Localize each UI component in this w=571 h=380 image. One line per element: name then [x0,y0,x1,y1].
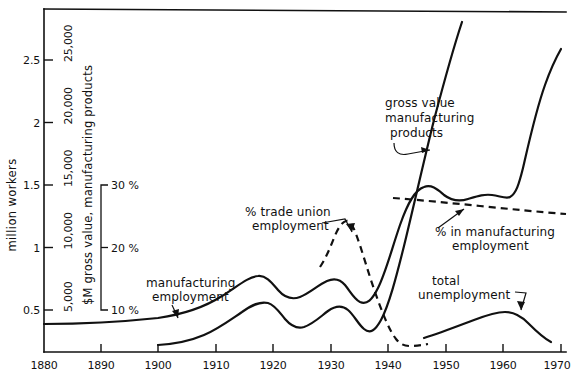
x-tick-label-1950: 1950 [432,359,459,372]
top-rule [44,9,566,12]
series-total-unemployment [424,312,551,342]
y-axis-title-million-workers: million workers [5,158,19,251]
x-tick-label-1910: 1910 [202,359,229,372]
percent-label-10: 10 % [111,304,139,317]
unemployment-annotation: total unemployment [418,274,526,310]
chart-container: 0.5 1 1.5 2 2.5 million workers 5,000 10… [0,0,571,380]
unemployment-annotation-arrowhead [517,301,525,310]
y-axis-title-gross-value: $M gross value, manufacturing products [81,65,95,305]
x-tick-label-1880: 1880 [30,359,57,372]
gross-value-annotation-line1: gross value [385,96,455,110]
x-tick-label-1930: 1930 [317,359,344,372]
x-tick-label-1890: 1890 [87,359,114,372]
percent-label-20: 20 % [111,242,139,255]
y-tick-label-20000: 20,000 [62,87,75,124]
y-tick-label-25000: 25,000 [62,25,75,62]
x-axis-ticks [101,344,561,352]
x-tick-label-1970: 1970 [543,359,570,372]
gross-value-annotation: gross value manufacturing products [385,96,475,155]
y-tick-label-15000: 15,000 [62,150,75,187]
x-tick-label-1960: 1960 [489,359,516,372]
x-tick-label-1940: 1940 [374,359,401,372]
manufacturing-employment-annotation: manufacturing employment [146,276,236,318]
y-tick-label-10000: 10,000 [62,212,75,249]
trade-union-annotation-line2: employment [252,219,329,233]
series-percent-trade-union-employment [320,221,428,346]
gross-value-annotation-line3: products [390,126,443,140]
pct-manufacturing-annotation: % in manufacturing employment [435,209,555,253]
percent-scale-bracket: 30 % 20 % 10 % [101,179,139,317]
multi-series-line-chart: 0.5 1 1.5 2 2.5 million workers 5,000 10… [0,0,571,380]
gross-value-annotation-line2: manufacturing [385,111,475,125]
series-percent-in-manufacturing-employment [393,198,566,214]
unemployment-annotation-line1: total [432,274,460,288]
y-tick-label-0.5: 0.5 [23,304,40,317]
pct-manufacturing-annotation-line1: % in manufacturing [435,225,555,239]
y-tick-labels-gross-value: 5,000 10,000 15,000 20,000 25,000 [62,25,75,312]
y-tick-label-1: 1 [33,242,40,255]
pct-manufacturing-annotation-line2: employment [452,239,529,253]
y-tick-label-5000: 5,000 [62,281,75,312]
y-tick-label-1.5: 1.5 [23,179,40,192]
manufacturing-employment-annotation-line1: manufacturing [146,276,236,290]
y-tick-labels-workers: 0.5 1 1.5 2 2.5 [23,54,40,317]
manufacturing-employment-annotation-arrowhead [172,309,179,318]
percent-label-30: 30 % [111,179,139,192]
manufacturing-employment-annotation-line2: employment [152,290,229,304]
trade-union-annotation-line1: % trade union [245,205,331,219]
x-tick-label-1920: 1920 [259,359,286,372]
y-tick-label-2.5: 2.5 [23,54,40,67]
y-tick-label-2: 2 [33,117,40,130]
x-tick-labels: 1880 1890 1900 1910 1920 1930 1940 1950 … [30,359,570,372]
y-axis-ticks-workers [44,60,53,310]
x-tick-label-1900: 1900 [144,359,171,372]
unemployment-annotation-line2: unemployment [418,288,510,302]
